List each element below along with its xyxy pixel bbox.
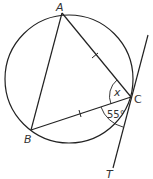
angle-label-x: x xyxy=(113,86,121,99)
side-ab xyxy=(31,13,62,130)
side-ac xyxy=(62,13,131,97)
point-label-a: A xyxy=(55,1,64,14)
circle-theorem-diagram: A B C T x 55° xyxy=(0,0,153,179)
point-label-b: B xyxy=(24,133,32,146)
circle xyxy=(5,15,133,143)
point-label-c: C xyxy=(134,93,142,106)
angle-label-55: 55° xyxy=(107,109,125,120)
point-label-t: T xyxy=(106,168,114,179)
